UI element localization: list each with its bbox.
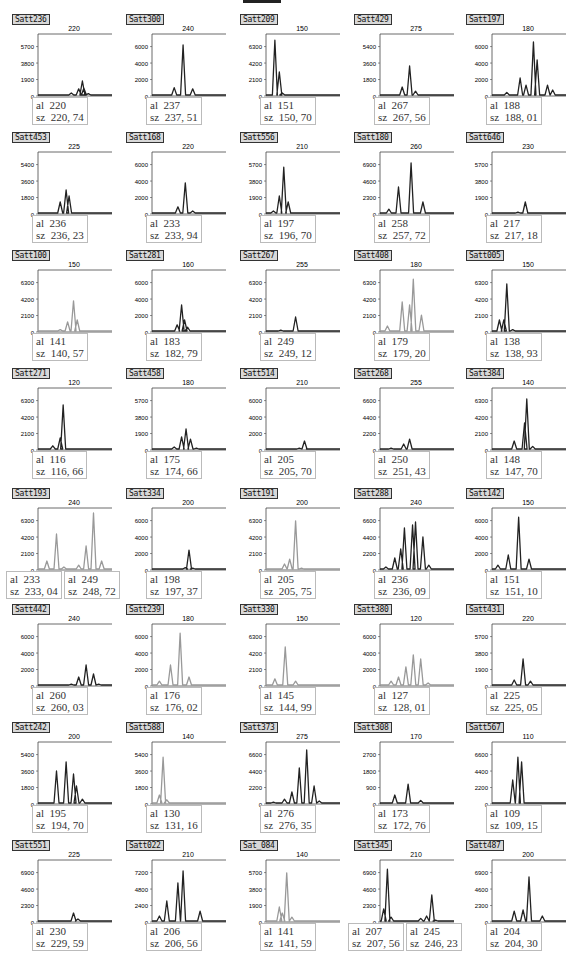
allele-call-box: al 151sz 150, 70 xyxy=(260,97,316,125)
size-value: sz 188, 01 xyxy=(490,111,538,123)
electropherogram-panel: Satt4532250180036005400al 236sz 236, 23 xyxy=(4,132,116,250)
size-value: sz 204, 30 xyxy=(490,937,538,949)
size-value: sz 172, 76 xyxy=(378,819,426,831)
trace-line xyxy=(492,399,566,449)
y-tick-label: 7200 xyxy=(135,870,149,876)
y-tick-label: 2000 xyxy=(135,551,149,557)
y-tick-label: 6000 xyxy=(135,634,149,640)
electropherogram-panel: Satt2422000180036005400al 195sz 194, 70 xyxy=(4,722,116,840)
allele-call-box: al 127sz 128, 01 xyxy=(374,687,430,715)
trace-plot: 1800200040006000 xyxy=(458,24,570,106)
trace-plot: 2200190038005700 xyxy=(458,614,570,696)
allele-call-box: al 179sz 179, 20 xyxy=(374,333,430,361)
size-value: sz 128, 01 xyxy=(378,701,426,713)
y-tick-label: 6300 xyxy=(249,44,263,50)
electropherogram-panel: Satt1802600230046006900al 258sz 257, 72 xyxy=(346,132,458,250)
bp-tick-label: 120 xyxy=(68,379,80,386)
size-value: sz 248, 72 xyxy=(68,585,116,597)
y-tick-label: 2000 xyxy=(135,313,149,319)
y-tick-label: 6000 xyxy=(475,44,489,50)
size-value: sz 174, 66 xyxy=(150,465,198,477)
trace-line xyxy=(38,405,112,449)
y-tick-label: 6300 xyxy=(249,280,263,286)
trace-plot: 1500210042006300 xyxy=(458,260,570,342)
y-tick-label: 4000 xyxy=(135,179,149,185)
trace-line xyxy=(492,659,566,685)
y-tick-label: 3800 xyxy=(21,61,35,67)
allele-call-box: al 138sz 138, 93 xyxy=(486,333,542,361)
y-tick-label: 6300 xyxy=(363,280,377,286)
y-tick-label: 1900 xyxy=(475,195,489,201)
bp-tick-label: 255 xyxy=(296,261,308,268)
y-tick-label: 6600 xyxy=(249,752,263,758)
allele-value: al 195 xyxy=(36,807,66,819)
allele-call-box: al 176sz 176, 02 xyxy=(146,687,202,715)
allele-value: al 260 xyxy=(36,689,66,701)
trace-line xyxy=(266,647,340,685)
allele-call-box: al 116sz 116, 66 xyxy=(32,451,87,479)
trace-line xyxy=(152,757,226,803)
y-tick-label: 6900 xyxy=(21,870,35,876)
y-tick-label: 5700 xyxy=(475,162,489,168)
y-tick-label: 4600 xyxy=(363,179,377,185)
allele-value: al 141 xyxy=(36,335,66,347)
y-tick-label: 5400 xyxy=(21,752,35,758)
allele-value: al 258 xyxy=(378,217,408,229)
trace-line xyxy=(38,665,112,685)
trace-plot: 1400180036005400 xyxy=(118,732,230,814)
trace-plot: 1200210042006300 xyxy=(4,378,116,460)
y-tick-label: 2400 xyxy=(135,903,149,909)
y-tick-label: 2000 xyxy=(475,551,489,557)
trace-line xyxy=(152,429,226,449)
trace-plot: 2400200040006000 xyxy=(4,614,116,696)
electropherogram-panel: Satt2711200210042006300al 116sz 116, 66 xyxy=(4,368,116,486)
y-tick-label: 4200 xyxy=(475,297,489,303)
electropherogram-panel: Satt6462300190038005700al 217sz 217, 18 xyxy=(458,132,570,250)
allele-value: al 183 xyxy=(150,335,180,347)
y-tick-label: 5700 xyxy=(249,870,263,876)
trace-plot: 2000230046006900 xyxy=(458,850,570,932)
bp-tick-label: 210 xyxy=(182,851,194,858)
y-tick-label: 6000 xyxy=(135,280,149,286)
size-value: sz 131, 16 xyxy=(150,819,198,831)
bp-tick-label: 200 xyxy=(68,733,80,740)
y-tick-label: 4200 xyxy=(249,61,263,67)
allele-value: al 127 xyxy=(378,689,408,701)
size-value: sz 236, 09 xyxy=(378,585,426,597)
y-tick-label: 4600 xyxy=(21,887,35,893)
y-tick-label: 4000 xyxy=(475,535,489,541)
trace-plot: 2250180036005400 xyxy=(4,142,116,224)
allele-value: al 138 xyxy=(490,335,520,347)
y-tick-label: 6000 xyxy=(363,634,377,640)
electropherogram-panel: Satt2682550220044006600al 250sz 251, 43 xyxy=(346,368,458,486)
trace-plot: 1500210042006300 xyxy=(232,614,344,696)
bp-tick-label: 150 xyxy=(522,499,534,506)
size-value: sz 197, 37 xyxy=(150,585,198,597)
electropherogram-panel: Satt4081800210042006300al 179sz 179, 20 xyxy=(346,250,458,368)
y-tick-label: 3800 xyxy=(475,651,489,657)
trace-line xyxy=(38,81,112,95)
allele-value: al 245 xyxy=(410,925,440,937)
allele-call-box: al 197sz 196, 70 xyxy=(260,215,316,243)
size-value: sz 225, 05 xyxy=(490,701,538,713)
allele-call-box: al 249sz 248, 72 xyxy=(64,571,120,599)
y-tick-label: 4000 xyxy=(135,61,149,67)
y-tick-label: 1900 xyxy=(21,77,35,83)
y-tick-label: 1800 xyxy=(21,785,35,791)
y-tick-label: 3800 xyxy=(135,415,149,421)
size-value: sz 236, 23 xyxy=(36,229,84,241)
electropherogram-panel: Satt4292750180036005400al 267sz 267, 56 xyxy=(346,14,458,132)
y-tick-label: 6000 xyxy=(21,634,35,640)
trace-plot: 2200200040006000 xyxy=(118,142,230,224)
allele-value: al 276 xyxy=(264,807,294,819)
allele-call-box: al 130sz 131, 16 xyxy=(146,805,202,833)
size-value: sz 267, 56 xyxy=(378,111,426,123)
y-tick-label: 6300 xyxy=(249,634,263,640)
allele-call-box: al 141sz 141, 59 xyxy=(260,923,316,951)
y-tick-label: 4000 xyxy=(135,651,149,657)
allele-value: al 233 xyxy=(10,573,40,585)
bp-tick-label: 240 xyxy=(182,25,194,32)
y-tick-label: 3800 xyxy=(249,179,263,185)
bp-tick-label: 220 xyxy=(68,25,80,32)
trace-line xyxy=(152,633,226,685)
